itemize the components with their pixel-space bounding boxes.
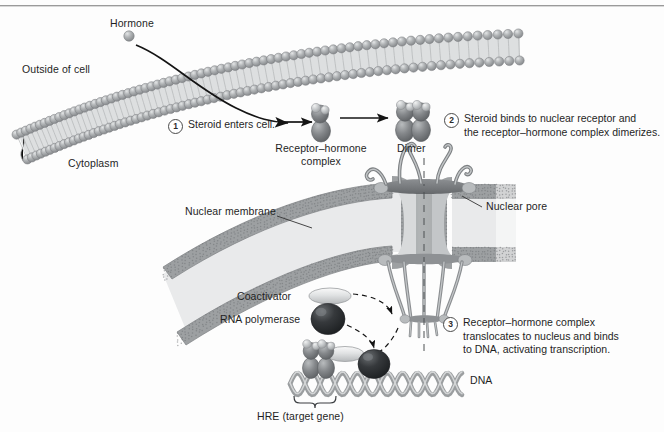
diagram-artwork [0, 0, 664, 432]
rhc-line-2: complex [301, 155, 341, 167]
nuclear-basket [388, 262, 462, 320]
label-dimer: Dimer [397, 142, 426, 155]
label-outside-of-cell: Outside of cell [22, 63, 90, 76]
label-coactivator: Coactivator [237, 290, 291, 303]
coactivator-glyph [309, 288, 351, 304]
step-3-text: Receptor–hormone complex translocates to… [463, 316, 619, 357]
rhc-line-1: Receptor–hormone [275, 142, 367, 154]
label-hre: HRE (target gene) [257, 410, 344, 423]
label-nuclear-membrane: Nuclear membrane [185, 205, 276, 218]
label-rna-polymerase: RNA polymerase [220, 313, 300, 326]
step-3: 3 Receptor–hormone complex translocates … [443, 316, 619, 357]
step-1-text: Steroid enters cell. [188, 118, 275, 132]
label-cytoplasm: Cytoplasm [68, 157, 119, 170]
label-dna: DNA [470, 374, 492, 387]
figure-canvas: Hormone Outside of cell Cytoplasm Recept… [0, 0, 664, 432]
label-hormone: Hormone [110, 17, 154, 30]
bound-rna-polymerase [358, 350, 390, 379]
step-1-number: 1 [168, 119, 183, 134]
label-receptor-hormone-complex: Receptor–hormone complex [268, 142, 374, 168]
step-1: 1 Steroid enters cell. [168, 118, 275, 134]
rna-polymerase-glyph [311, 304, 345, 335]
assembly-dashed-arrows [347, 294, 398, 356]
step-2: 2 Steroid binds to nuclear receptor and … [444, 112, 660, 139]
step-2-number: 2 [444, 113, 459, 128]
step-2-text: Steroid binds to nuclear receptor and th… [464, 112, 660, 139]
hre-brace [294, 396, 336, 408]
dimer-glyph [396, 100, 431, 141]
label-nuclear-pore: Nuclear pore [486, 200, 547, 213]
hormone-molecule [124, 31, 134, 41]
step-3-number: 3 [443, 317, 458, 332]
receptor-hormone-complex-glyph [311, 103, 330, 142]
